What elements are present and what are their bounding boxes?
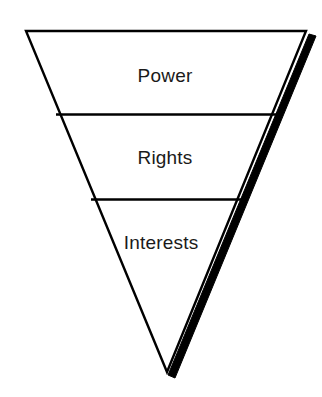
tier-label-interests: Interests: [124, 232, 199, 254]
tier-label-rights: Rights: [137, 147, 192, 169]
tier-label-power: Power: [138, 65, 193, 87]
diagram-canvas: Power Rights Interests: [0, 0, 322, 397]
inverted-triangle-graphic: [0, 0, 322, 397]
